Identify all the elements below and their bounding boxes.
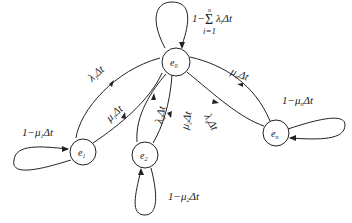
label-e0-en: λnΔt <box>201 110 222 133</box>
svg-text:λ1Δt: λ1Δt <box>85 62 108 85</box>
label-self-e0: 1− Σ n i=1 λiΔt <box>192 7 233 36</box>
edge-self-en <box>288 118 345 139</box>
node-e2: e2 <box>132 142 158 168</box>
edge-e0-en <box>187 72 264 126</box>
svg-text:1−: 1− <box>192 12 205 24</box>
label-en-e0: μnΔt <box>228 64 251 84</box>
svg-text:μ2Δt: μ2Δt <box>178 109 195 131</box>
arrow-icon <box>289 135 296 141</box>
edge-self-e0 <box>156 2 188 48</box>
svg-text:λ2Δt: λ2Δt <box>152 104 169 126</box>
node-en: en <box>263 120 289 146</box>
svg-text:1−μnΔt: 1−μnΔt <box>282 94 314 107</box>
svg-text:μnΔt: μnΔt <box>228 64 251 84</box>
svg-text:λiΔt: λiΔt <box>215 12 233 25</box>
edge-e1-e0 <box>93 73 162 143</box>
arrow-icon <box>151 93 156 100</box>
arrow-icon <box>62 146 69 152</box>
label-self-e1: 1−μ1Δt <box>22 126 54 139</box>
arrow-icon <box>138 168 144 175</box>
arrow-icon <box>212 99 219 104</box>
svg-text:i=1: i=1 <box>203 26 216 36</box>
edge-e0-e1 <box>76 58 160 138</box>
arrow-icon <box>167 111 172 118</box>
svg-text:Σ: Σ <box>205 12 213 27</box>
svg-text:1−μ1Δt: 1−μ1Δt <box>22 126 54 139</box>
arrow-icon <box>109 80 114 87</box>
edge-en-e0 <box>190 57 270 121</box>
node-e0: e0 <box>162 48 190 76</box>
state-transition-diagram: e0 e1 e2 en 1− Σ n i=1 λiΔt λ1Δt μ1Δt 1−… <box>0 0 352 223</box>
svg-text:λnΔt: λnΔt <box>201 110 222 133</box>
label-e2-e0: μ2Δt <box>178 109 195 131</box>
svg-text:n: n <box>208 7 211 13</box>
edge-self-e2 <box>135 168 156 215</box>
svg-text:1−μ2Δt: 1−μ2Δt <box>168 190 200 203</box>
label-self-en: 1−μnΔt <box>282 94 314 107</box>
label-e0-e2: λ2Δt <box>152 104 169 126</box>
arrow-icon <box>179 42 185 49</box>
node-e1: e1 <box>70 139 96 165</box>
label-e0-e1: λ1Δt <box>85 62 108 85</box>
label-self-e2: 1−μ2Δt <box>168 190 200 203</box>
arrow-icon <box>237 83 243 87</box>
